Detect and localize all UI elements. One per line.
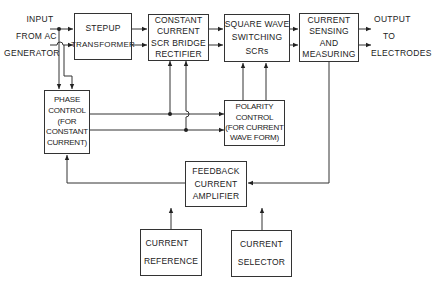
block-text: CURRENT xyxy=(308,15,351,26)
block-text: (FOR xyxy=(58,117,77,128)
block-text: CONTROL xyxy=(236,113,274,123)
stepup-transformer-block: STEPUP TRANSFORMER xyxy=(74,13,132,60)
output-label-line: OUTPUT xyxy=(371,11,432,28)
output-label-line: TO xyxy=(371,28,432,45)
block-text: CONTROL xyxy=(48,106,86,117)
block-text: SENSING xyxy=(309,26,349,37)
current-reference-block: CURRENT REFERENCE xyxy=(140,229,202,276)
block-text: POLARITY xyxy=(236,102,274,112)
block-text: PHASE xyxy=(54,95,80,106)
block-text: SCRs xyxy=(246,45,269,59)
input-label-line: GENERATOR xyxy=(4,45,60,62)
block-text: CONSTANT xyxy=(46,127,88,138)
polarity-control-block: POLARITY CONTROL (FOR CURRENT WAVE FORM) xyxy=(224,100,285,146)
block-text: FEEDBACK xyxy=(192,165,239,178)
current-selector-block: CURRENT SELECTOR xyxy=(231,230,292,277)
block-text: CURRENT) xyxy=(47,138,87,149)
block-text: (FOR CURRENT xyxy=(225,123,283,133)
block-text: RECTIFIER xyxy=(155,49,202,60)
input-label: INPUT FROM AC GENERATOR xyxy=(20,11,60,62)
block-text: CURRENT xyxy=(146,235,189,253)
block-text: TRANSFORMER xyxy=(71,37,135,53)
block-text: WAVE FORM) xyxy=(230,133,279,143)
output-label: OUTPUT TO ELECTRODES xyxy=(371,11,432,62)
input-label-line: FROM AC xyxy=(13,28,60,45)
block-text: CONSTANT xyxy=(155,15,203,26)
output-label-line: ELECTRODES xyxy=(371,45,432,62)
block-text: MEASURING xyxy=(302,49,355,60)
input-label-line: INPUT xyxy=(20,11,60,28)
block-text: CURRENT xyxy=(240,236,283,254)
phase-control-block: PHASE CONTROL (FOR CONSTANT CURRENT) xyxy=(44,90,90,154)
feedback-amplifier-block: FEEDBACK CURRENT AMPLIFIER xyxy=(185,161,247,207)
block-text: SELECTOR xyxy=(238,254,285,272)
current-sensing-block: CURRENT SENSING AND MEASURING xyxy=(299,13,359,62)
scr-bridge-rectifier-block: CONSTANT CURRENT SCR BRIDGE RECTIFIER xyxy=(148,14,209,61)
block-text: AND xyxy=(320,38,339,49)
block-text: STEPUP xyxy=(85,20,120,37)
block-text: CURRENT xyxy=(195,178,238,191)
block-text: SCR BRIDGE xyxy=(151,38,206,49)
block-text: CURRENT xyxy=(157,26,200,37)
block-text: SWITCHING xyxy=(232,31,282,45)
block-text: SQUARE WAVE xyxy=(225,18,290,32)
block-text: AMPLIFIER xyxy=(193,190,240,203)
square-wave-switching-block: SQUARE WAVE SWITCHING SCRs xyxy=(224,14,290,62)
block-text: REFERENCE xyxy=(144,253,198,271)
